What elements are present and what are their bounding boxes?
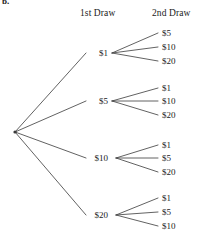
second-draw-label-0-1: $10	[162, 43, 176, 52]
first-draw-label-0: $1	[0, 49, 108, 58]
second-draw-label-1-1: $10	[162, 97, 176, 106]
second-draw-label-3-0: $1	[162, 194, 171, 203]
first-draw-label-1: $5	[0, 97, 108, 106]
root-node-dot	[13, 130, 16, 133]
edge-branch-1-to-leaf-0	[112, 88, 158, 101]
second-draw-label-2-1: $5	[162, 154, 171, 163]
edge-root-to-branch-3	[15, 132, 86, 215]
edge-branch-0-to-leaf-2	[112, 53, 158, 61]
first-draw-label-3: $20	[0, 211, 108, 220]
second-draw-label-1-0: $1	[162, 84, 171, 93]
second-draw-label-0-0: $5	[162, 29, 171, 38]
edge-root-to-branch-0	[15, 53, 86, 132]
first-draw-label-2: $10	[0, 154, 108, 163]
edge-branch-1-to-leaf-2	[112, 101, 158, 115]
second-draw-label-3-1: $5	[162, 208, 171, 217]
second-draw-label-1-2: $20	[162, 111, 176, 120]
second-draw-label-2-2: $20	[162, 168, 176, 177]
edge-branch-2-to-leaf-2	[116, 158, 158, 172]
second-draw-label-0-2: $20	[162, 57, 176, 66]
second-draw-label-3-2: $10	[162, 222, 176, 231]
tree-diagram-figure: b. 1st Draw 2nd Draw $1$5$10$20$5$1$10$2…	[0, 0, 202, 240]
edge-branch-2-to-leaf-0	[116, 145, 158, 158]
edge-branch-3-to-leaf-2	[116, 215, 158, 226]
second-draw-label-2-0: $1	[162, 141, 171, 150]
tree-edges	[0, 0, 202, 240]
edge-root-to-branch-1	[15, 101, 86, 132]
